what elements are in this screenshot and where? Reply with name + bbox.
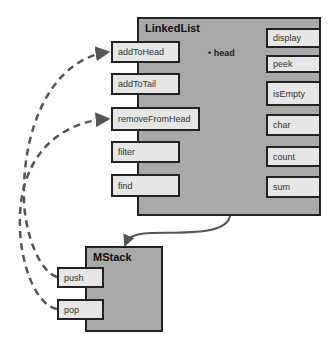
method-label: sum [273,182,290,192]
method-pop[interactable]: pop [57,299,104,320]
field-head: • head [208,48,235,58]
method-label: filter [118,147,135,157]
method-char[interactable]: char [266,114,321,136]
method-isEmpty[interactable]: isEmpty [266,81,321,106]
method-label: find [118,181,133,191]
method-peek[interactable]: peek [266,55,321,73]
method-label: removeFromHead [118,114,191,124]
dashed-arrow-push-to-addToHead [24,52,108,277]
method-label: char [273,120,291,130]
method-display[interactable]: display [266,28,321,48]
method-addToTail[interactable]: addToTail [111,73,180,95]
method-label: addToTail [118,79,156,89]
field-head-label: head [214,48,235,58]
method-label: push [64,273,84,283]
mstack-title: MStack [93,251,132,263]
method-label: addToHead [118,47,164,57]
method-filter[interactable]: filter [111,141,180,163]
method-label: peek [273,59,293,69]
method-count[interactable]: count [266,146,321,167]
method-label: count [273,152,295,162]
method-label: pop [64,305,79,315]
method-label: isEmpty [273,89,305,99]
solid-arrow-linkedlist-to-mstack [125,216,230,245]
method-removeFromHead[interactable]: removeFromHead [111,107,200,131]
method-addToHead[interactable]: addToHead [111,41,180,63]
linkedlist-title: LinkedList [145,22,200,34]
method-label: display [273,33,301,43]
method-sum[interactable]: sum [266,176,321,198]
method-push[interactable]: push [57,267,104,288]
method-find[interactable]: find [111,174,180,197]
